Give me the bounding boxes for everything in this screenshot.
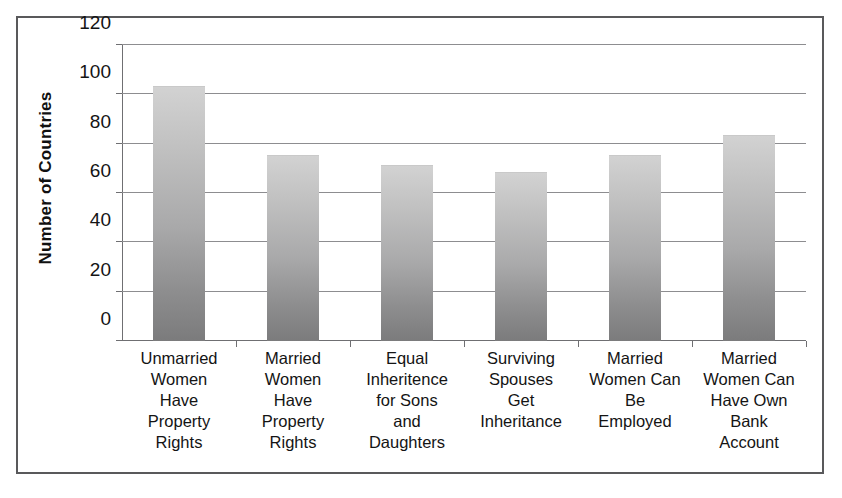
x-axis-label-line: Women	[238, 369, 348, 390]
bar-2[interactable]	[267, 155, 319, 341]
x-axis-label-line: Spouses	[466, 369, 576, 390]
x-axis-label-line: Married	[580, 348, 690, 369]
x-axis-label-6: MarriedWomen CanHave OwnBankAccount	[692, 348, 806, 472]
gridline-120	[122, 44, 806, 45]
x-axis-label-line: Property	[124, 411, 234, 432]
x-tick-mark-4	[578, 341, 579, 347]
bar-3[interactable]	[381, 165, 433, 341]
x-axis-label-line: Married	[238, 348, 348, 369]
x-axis-label-line: Daughters	[352, 432, 462, 453]
x-axis-label-line: Be	[580, 390, 690, 411]
plot-area: 020406080100120	[122, 45, 806, 341]
bar-4[interactable]	[495, 172, 547, 341]
x-tick-mark-2	[350, 341, 351, 347]
x-axis-label-4: SurvivingSpousesGetInheritance	[464, 348, 578, 472]
bar-6[interactable]	[723, 135, 775, 341]
x-axis-label-line: Bank	[694, 411, 804, 432]
x-axis-label-line: Women Can	[694, 369, 804, 390]
gridline-20	[122, 291, 806, 292]
x-tick-mark-6	[806, 341, 807, 347]
x-axis-label-line: Married	[694, 348, 804, 369]
figure-frame: Number of Countries 020406080100120 Unma…	[16, 16, 824, 474]
x-axis-label-1: UnmarriedWomenHavePropertyRights	[122, 348, 236, 472]
x-axis-label-line: Have	[124, 390, 234, 411]
gridline-60	[122, 192, 806, 193]
x-axis-label-line: Have	[238, 390, 348, 411]
y-tick-mark-0	[116, 340, 122, 341]
y-tick-label-80: 80	[90, 111, 111, 133]
bar-1[interactable]	[153, 86, 205, 341]
y-tick-mark-60	[116, 192, 122, 193]
x-axis-label-2: MarriedWomenHavePropertyRights	[236, 348, 350, 472]
x-axis-label-line: Property	[238, 411, 348, 432]
y-tick-label-120: 120	[79, 12, 111, 34]
x-axis-label-line: Get	[466, 390, 576, 411]
bar-5[interactable]	[609, 155, 661, 341]
x-axis-label-line: Inheritance	[466, 411, 576, 432]
x-axis-label-line: Unmarried	[124, 348, 234, 369]
x-tick-mark-3	[464, 341, 465, 347]
x-axis-label-line: Equal	[352, 348, 462, 369]
x-axis-label-line: Have Own	[694, 390, 804, 411]
y-tick-mark-20	[116, 291, 122, 292]
x-axis-label-line: Inheritence	[352, 369, 462, 390]
x-axis-label-line: Rights	[124, 432, 234, 453]
y-tick-mark-120	[116, 44, 122, 45]
x-tick-mark-5	[692, 341, 693, 347]
x-axis-label-line: Women	[124, 369, 234, 390]
gridline-40	[122, 241, 806, 242]
x-axis-labels: UnmarriedWomenHavePropertyRightsMarriedW…	[122, 348, 806, 472]
y-tick-label-60: 60	[90, 160, 111, 182]
y-axis-title: Number of Countries	[36, 58, 56, 298]
x-axis-label-line: Rights	[238, 432, 348, 453]
y-tick-mark-80	[116, 143, 122, 144]
x-axis-label-line: Women Can	[580, 369, 690, 390]
y-axis-line	[122, 45, 123, 341]
y-tick-mark-100	[116, 93, 122, 94]
x-axis-label-line: Employed	[580, 411, 690, 432]
x-axis-label-line: and	[352, 411, 462, 432]
y-tick-label-20: 20	[90, 259, 111, 281]
x-axis-label-line: Account	[694, 432, 804, 453]
x-axis-label-line: Surviving	[466, 348, 576, 369]
x-tick-mark-1	[236, 341, 237, 347]
y-tick-label-0: 0	[100, 308, 111, 330]
gridline-100	[122, 93, 806, 94]
y-tick-label-40: 40	[90, 209, 111, 231]
y-tick-mark-40	[116, 241, 122, 242]
y-tick-label-100: 100	[79, 61, 111, 83]
x-axis-label-line: for Sons	[352, 390, 462, 411]
x-axis-label-5: MarriedWomen CanBeEmployed	[578, 348, 692, 472]
bar-chart: Number of Countries 020406080100120 Unma…	[18, 18, 822, 472]
x-axis-label-3: EqualInheritencefor SonsandDaughters	[350, 348, 464, 472]
gridline-80	[122, 143, 806, 144]
